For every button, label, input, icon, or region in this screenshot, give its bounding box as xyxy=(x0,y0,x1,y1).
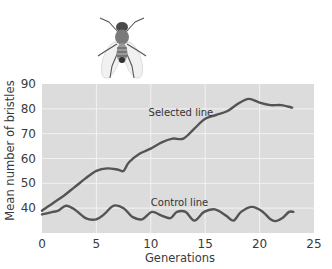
fruit-fly-illustration xyxy=(98,18,147,81)
x-axis-ticks: 0510152025 xyxy=(38,237,321,251)
fly-leg-icon xyxy=(135,18,144,22)
fly-leg-icon xyxy=(140,52,146,56)
y-tick-label: 70 xyxy=(21,127,36,141)
y-tick-label: 80 xyxy=(21,102,36,116)
x-tick-label: 5 xyxy=(93,237,101,251)
fly-leg-icon xyxy=(100,18,109,22)
y-tick-label: 90 xyxy=(21,77,36,91)
y-axis-ticks: 405060708090 xyxy=(21,77,36,215)
y-tick-label: 40 xyxy=(21,201,36,215)
x-tick-label: 0 xyxy=(38,237,46,251)
x-tick-label: 10 xyxy=(143,237,158,251)
x-tick-label: 15 xyxy=(198,237,213,251)
x-tick-label: 20 xyxy=(252,237,267,251)
y-axis-title: Mean number of bristles xyxy=(3,80,17,220)
selected-line-label: Selected line xyxy=(149,107,214,118)
fly-thorax-icon xyxy=(115,30,129,45)
y-tick-label: 50 xyxy=(21,176,36,190)
x-axis-title: Generations xyxy=(145,251,215,265)
fly-leg-icon xyxy=(98,52,104,56)
y-tick-label: 60 xyxy=(21,152,36,166)
control-line-label: Control line xyxy=(151,197,208,208)
x-tick-label: 25 xyxy=(306,237,321,251)
bristle-selection-chart: 0510152025 405060708090 Selected lineCon… xyxy=(0,0,332,269)
